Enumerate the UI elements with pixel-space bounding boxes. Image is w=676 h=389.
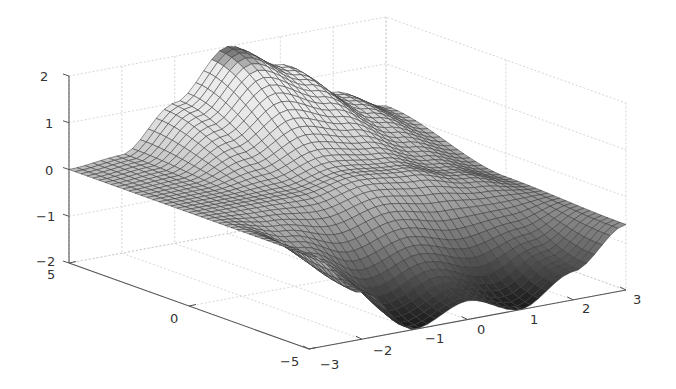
y-tick-minus-5: −5	[280, 354, 299, 369]
x-tick-3: 3	[633, 292, 641, 307]
z-tick-0: 0	[45, 163, 53, 178]
y-tick-0: 0	[170, 311, 178, 326]
surface-plot: 2 1 0 −1 −2 5 0 −5 −3 −2 −1 0 1 2 3	[0, 0, 676, 389]
x-tick-1: 1	[530, 312, 538, 327]
surface-mesh	[69, 47, 626, 330]
x-tick-2: 2	[582, 301, 590, 316]
x-tick-minus-1: −1	[425, 331, 444, 346]
x-tick-minus-2: −2	[373, 343, 392, 358]
z-tick-1: 1	[45, 116, 53, 131]
x-tick-0: 0	[477, 322, 485, 337]
x-tick-minus-3: −3	[320, 357, 339, 372]
y-tick-5: 5	[47, 267, 55, 282]
z-tick-minus-1: −1	[36, 209, 55, 224]
z-tick-2: 2	[40, 69, 48, 84]
